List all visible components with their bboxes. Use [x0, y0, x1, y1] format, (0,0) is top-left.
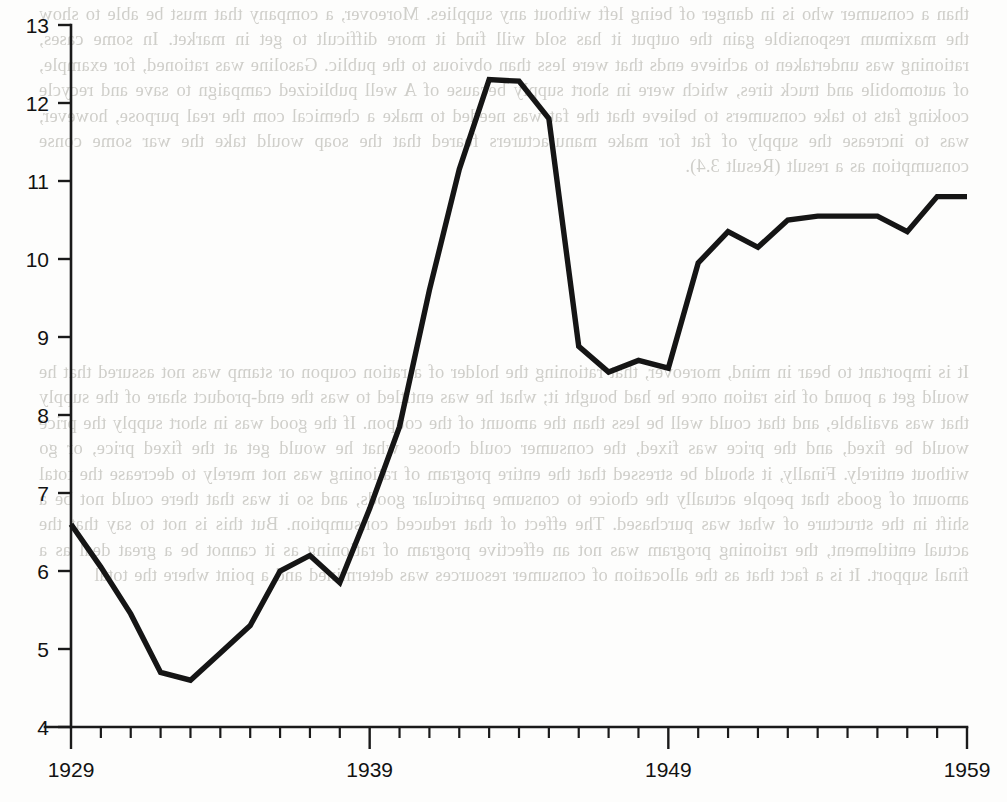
y-tick-label: 10: [26, 248, 49, 271]
x-tick-label: 1929: [48, 758, 95, 781]
x-axis: 1929193919491959: [45, 727, 990, 781]
data-line-series-1: [71, 80, 967, 681]
scanned-page: than a consumer who is in danger of bein…: [0, 0, 1007, 802]
y-tick-label: 8: [37, 404, 49, 427]
y-tick-label: 12: [26, 92, 49, 115]
chart-canvas: 45678910111213 1929193919491959: [0, 0, 1007, 802]
y-tick-label: 9: [37, 326, 49, 349]
y-axis: 45678910111213: [26, 14, 71, 739]
y-tick-label: 7: [37, 482, 49, 505]
y-tick-label: 11: [27, 170, 49, 193]
x-tick-label: 1939: [346, 758, 393, 781]
y-tick-label: 5: [37, 638, 49, 661]
y-tick-label: 13: [26, 14, 49, 37]
line-chart: 45678910111213 1929193919491959: [0, 0, 1007, 802]
y-tick-label: 6: [37, 560, 49, 583]
x-tick-label: 1959: [944, 758, 991, 781]
data-series-group: [71, 80, 967, 681]
x-tick-label: 1949: [645, 758, 692, 781]
